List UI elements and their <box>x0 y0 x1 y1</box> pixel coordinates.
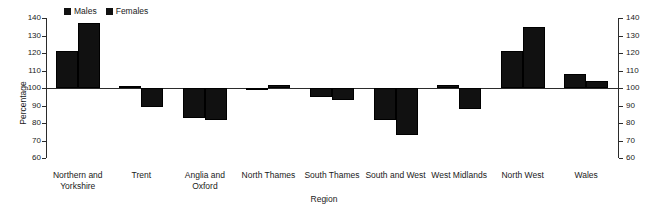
bar-chart-figure: MalesFemales Percentage 1401301201101009… <box>0 0 648 206</box>
y-tick-label-left-60: 60 <box>32 154 41 162</box>
y-tick-right-120 <box>619 53 623 54</box>
y-tick-label-right-100: 100 <box>626 84 639 92</box>
bar-group <box>110 18 174 158</box>
y-tick-label-left-140: 140 <box>28 14 41 22</box>
filled-square-icon <box>64 8 71 15</box>
y-axis-right: 14013012011010090807060 <box>618 18 619 158</box>
bar-males-south-thames[interactable] <box>310 88 332 97</box>
y-axis-title-label: Percentage <box>18 81 28 124</box>
bar-group <box>491 18 555 158</box>
x-tick-label-trent: Trent <box>110 170 174 181</box>
x-tick-label-line: Wales <box>554 170 618 181</box>
y-tick-label-right-130: 130 <box>626 32 639 40</box>
bar-females-anglia-and-oxford[interactable] <box>205 88 227 120</box>
bar-females-west-midlands[interactable] <box>459 88 481 109</box>
x-tick-label-line: North West <box>491 170 555 181</box>
y-tick-label-left-130: 130 <box>28 32 41 40</box>
x-tick-label-line: Anglia and Oxford <box>173 170 237 192</box>
bar-males-north-west[interactable] <box>501 51 523 88</box>
x-tick-label-northern-and-yorkshire: Northern andYorkshire <box>46 170 110 192</box>
x-tick-label-west-midlands: West Midlands <box>427 170 491 181</box>
bar-females-wales[interactable] <box>586 81 608 88</box>
bar-group <box>364 18 428 158</box>
bar-group <box>427 18 491 158</box>
y-tick-right-90 <box>619 106 623 107</box>
bar-females-south-and-west[interactable] <box>396 88 418 135</box>
y-tick-right-110 <box>619 71 623 72</box>
x-axis-title-label: Region <box>311 194 338 204</box>
y-tick-right-60 <box>619 158 623 159</box>
y-tick-label-left-80: 80 <box>32 119 41 127</box>
bar-group <box>237 18 301 158</box>
bar-males-west-midlands[interactable] <box>437 85 459 89</box>
bar-females-trent[interactable] <box>141 88 163 107</box>
y-tick-label-left-110: 110 <box>28 67 41 75</box>
legend-label: Males <box>74 7 97 16</box>
plot-area <box>46 18 618 158</box>
x-tick-label-line: Yorkshire <box>46 181 110 192</box>
y-tick-right-70 <box>619 141 623 142</box>
bar-males-wales[interactable] <box>564 74 586 88</box>
bar-group <box>300 18 364 158</box>
x-tick-label-line: West Midlands <box>427 170 491 181</box>
chart-legend: MalesFemales <box>64 5 148 18</box>
x-tick-label-line: South and West <box>364 170 428 181</box>
x-axis-title: Region <box>0 194 648 204</box>
y-axis-title: Percentage <box>18 81 28 124</box>
y-tick-label-left-100: 100 <box>28 84 41 92</box>
x-tick-label-south-thames: South Thames <box>300 170 364 181</box>
legend-entry-males[interactable]: Males <box>64 7 97 16</box>
y-tick-label-right-90: 90 <box>626 102 635 110</box>
y-tick-left-60 <box>42 158 46 159</box>
y-tick-label-left-120: 120 <box>28 49 41 57</box>
y-tick-label-right-60: 60 <box>626 154 635 162</box>
bar-group <box>173 18 237 158</box>
y-tick-label-left-70: 70 <box>32 137 41 145</box>
bar-females-northern-and-yorkshire[interactable] <box>78 23 100 88</box>
x-tick-label-wales: Wales <box>554 170 618 181</box>
y-tick-label-left-90: 90 <box>32 102 41 110</box>
x-tick-label-line: Northern and <box>46 170 110 181</box>
y-tick-right-140 <box>619 18 623 19</box>
x-tick-label-line: Trent <box>110 170 174 181</box>
x-tick-label-line: North Thames <box>237 170 301 181</box>
bar-males-trent[interactable] <box>119 86 141 88</box>
bar-females-south-thames[interactable] <box>332 88 354 100</box>
x-axis-tick-labels: Northern andYorkshireTrentAnglia and Oxf… <box>46 170 618 194</box>
x-tick-label-south-and-west: South and West <box>364 170 428 181</box>
bar-group <box>554 18 618 158</box>
y-tick-label-right-80: 80 <box>626 119 635 127</box>
y-tick-right-130 <box>619 36 623 37</box>
y-tick-label-right-140: 140 <box>626 14 639 22</box>
x-tick-label-north-west: North West <box>491 170 555 181</box>
y-tick-right-100 <box>619 88 623 89</box>
y-tick-label-right-120: 120 <box>626 49 639 57</box>
bar-group <box>46 18 110 158</box>
x-tick-label-anglia-and-oxford: Anglia and Oxford <box>173 170 237 192</box>
bar-females-north-thames[interactable] <box>268 85 290 89</box>
filled-square-icon <box>106 8 113 15</box>
legend-label: Females <box>116 7 149 16</box>
y-tick-label-right-70: 70 <box>626 137 635 145</box>
bar-females-north-west[interactable] <box>523 27 545 88</box>
x-tick-label-line: South Thames <box>300 170 364 181</box>
bar-males-northern-and-yorkshire[interactable] <box>56 51 78 88</box>
bar-males-south-and-west[interactable] <box>374 88 396 120</box>
legend-entry-females[interactable]: Females <box>106 7 149 16</box>
y-tick-label-right-110: 110 <box>626 67 639 75</box>
bar-males-anglia-and-oxford[interactable] <box>183 88 205 118</box>
x-tick-label-north-thames: North Thames <box>237 170 301 181</box>
bar-males-north-thames[interactable] <box>246 88 268 90</box>
y-tick-right-80 <box>619 123 623 124</box>
